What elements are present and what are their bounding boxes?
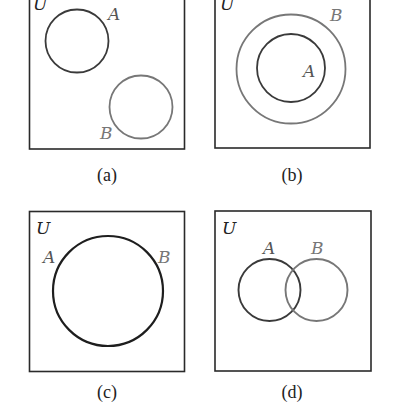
- caption-d: (d): [282, 382, 303, 403]
- set-label-a-B: B: [99, 123, 113, 143]
- set-label-b-A: A: [301, 61, 315, 81]
- universe-label-d: U: [222, 218, 237, 238]
- caption-a: (a): [97, 165, 117, 186]
- panel-d: U A B (d): [215, 211, 371, 403]
- universe-box-b: [215, 0, 370, 148]
- caption-c: (c): [97, 382, 117, 403]
- panel-c: U A B (c): [30, 212, 185, 404]
- set-label-b-B: B: [329, 5, 343, 25]
- set-label-c-B: B: [157, 247, 171, 267]
- set-circle-b-B: [237, 15, 346, 124]
- set-circle-c-AB: [53, 236, 163, 346]
- set-label-d-A: A: [261, 238, 275, 258]
- set-circle-d-B: [286, 259, 348, 321]
- set-circle-a-A: [46, 10, 109, 73]
- set-label-c-A: A: [41, 247, 55, 267]
- universe-label-b: U: [220, 0, 235, 14]
- caption-b: (b): [282, 165, 303, 186]
- panel-a: U A B (a): [30, 0, 185, 186]
- universe-label-a: U: [33, 0, 48, 14]
- universe-label-c: U: [36, 218, 51, 238]
- panel-b: U B A (b): [215, 0, 370, 186]
- set-circle-a-B: [110, 76, 173, 139]
- set-circle-d-A: [239, 259, 301, 321]
- venn-diagram-figure: U A B (a) U B A (b) U A B (c) U A B (d): [0, 0, 395, 406]
- set-label-a-A: A: [106, 4, 120, 24]
- set-label-d-B: B: [310, 238, 324, 258]
